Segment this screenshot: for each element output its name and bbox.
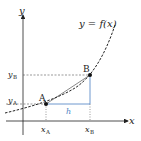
svg-text:A: A — [45, 129, 51, 135]
xa-tick-label: x A — [41, 125, 51, 135]
ya-tick-label: y A — [7, 96, 18, 106]
x-axis-label: x — [129, 115, 135, 126]
xb-tick-label: x B — [85, 125, 94, 135]
y-axis-label: y — [18, 5, 25, 16]
yb-tick-label: y B — [7, 70, 17, 80]
svg-text:B: B — [90, 129, 94, 135]
secant-line — [46, 75, 90, 104]
svg-text:B: B — [13, 74, 17, 80]
point-b-label: B — [83, 64, 90, 74]
derivative-diagram: y = f(x) y x A B h y B y A x A x B — [0, 0, 141, 141]
point-a-label: A — [38, 93, 46, 103]
h-label: h — [66, 107, 71, 116]
function-label: y = f(x) — [78, 18, 117, 29]
function-curve — [5, 25, 115, 113]
svg-text:A: A — [12, 100, 18, 106]
